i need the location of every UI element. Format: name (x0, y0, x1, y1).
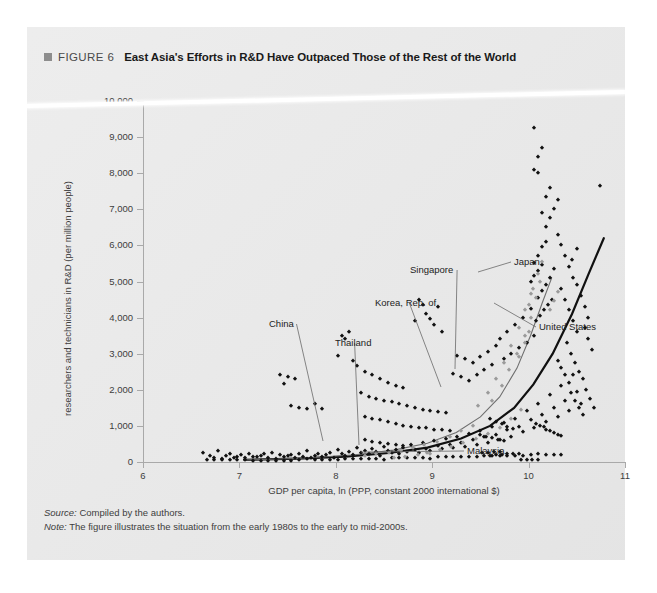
leader-line (455, 270, 457, 369)
leader-line (297, 324, 324, 441)
annotation-label: Thailand (335, 337, 371, 348)
leader-line (361, 451, 464, 452)
note-text: The figure illustrates the situation fro… (67, 521, 408, 532)
figure-number: FIGURE 6 (58, 51, 114, 63)
source-line: Source: Compiled by the authors. (44, 506, 408, 520)
note-label: Note: (44, 521, 67, 532)
annotation-leader-lines (143, 101, 625, 462)
source-text: Compiled by the authors. (77, 507, 185, 518)
x-axis-title: GDP per capita, ln (PPP, constant 2000 i… (143, 485, 625, 496)
leader-line (355, 343, 359, 445)
figure-page: FIGURE 6 East Asia's Efforts in R&D Have… (0, 0, 657, 593)
note-line: Note: The figure illustrates the situati… (44, 520, 408, 534)
leader-line (494, 303, 536, 327)
annotation-label: United States (539, 321, 596, 332)
figure-bullet-icon (44, 53, 52, 61)
annotation-label: Korea, Rep. of (375, 297, 436, 308)
y-axis-title: researchers and technicians in R&D (per … (62, 181, 73, 416)
figure-notes: Source: Compiled by the authors. Note: T… (44, 506, 408, 533)
annotation-label: China (269, 318, 294, 329)
figure-header: FIGURE 6 East Asia's Efforts in R&D Have… (44, 51, 516, 63)
annotation-label: Singapore (410, 264, 453, 275)
plot-area (143, 101, 625, 462)
source-label: Source: (44, 507, 77, 518)
annotation-label: Malaysia (467, 445, 505, 456)
leader-line (409, 303, 441, 387)
x-tick (625, 462, 626, 468)
annotation-label: Japan (514, 256, 540, 267)
leader-line (478, 262, 511, 272)
figure-title: East Asia's Efforts in R&D Have Outpaced… (124, 51, 516, 63)
